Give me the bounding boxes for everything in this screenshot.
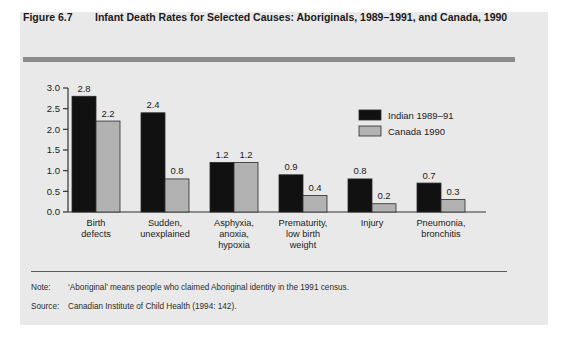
footer-rule bbox=[31, 271, 507, 272]
source-label: Source: bbox=[31, 301, 68, 312]
source-text: Canadian Institute of Child Health (1994… bbox=[68, 301, 236, 312]
figure-number: Figure 6.7 bbox=[23, 10, 95, 24]
header-rule bbox=[23, 57, 515, 62]
figure-header: Figure 6.7 Infant Death Rates for Select… bbox=[23, 10, 555, 24]
note-label: Note: bbox=[31, 282, 68, 293]
source-row: Source: Canadian Institute of Child Heal… bbox=[31, 301, 236, 312]
figure-title: Infant Death Rates for Selected Causes: … bbox=[95, 10, 507, 24]
note-row: Note: ‘Aboriginal’ means people who clai… bbox=[31, 282, 349, 293]
note-text: ‘Aboriginal’ means people who claimed Ab… bbox=[68, 282, 349, 293]
